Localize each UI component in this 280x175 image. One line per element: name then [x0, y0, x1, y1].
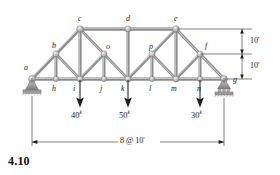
dimension-label-lower: 10': [250, 62, 259, 70]
joint-label-b: b: [52, 42, 56, 50]
figure-container: a b c d e f g h i j k l m n o p 40k 50k …: [0, 0, 280, 175]
load-arrow-50k: [125, 80, 131, 106]
load-unit-30: k: [200, 109, 202, 115]
joint-label-a: a: [24, 64, 28, 72]
load-value-30: 30: [191, 110, 200, 120]
load-unit-40: k: [80, 109, 82, 115]
dimension-label-span: 8 @ 10': [120, 137, 145, 145]
joint-p: [149, 51, 155, 57]
load-arrows: [77, 80, 203, 106]
joint-label-l: l: [149, 85, 151, 93]
joint-label-o: o: [106, 43, 110, 51]
joint-label-k: k: [121, 85, 125, 93]
joint-l: [149, 76, 154, 81]
joint-o: [101, 51, 107, 57]
load-label-40k: 40k: [71, 110, 82, 119]
joint-h: [53, 76, 58, 81]
load-value-40: 40: [71, 110, 80, 120]
joint-label-i: i: [73, 85, 75, 93]
joint-label-h: h: [52, 85, 56, 93]
joint-j: [101, 76, 106, 81]
load-arrow-40k: [77, 80, 83, 106]
truss-diagram: [0, 0, 280, 175]
vertical-members: [55, 29, 200, 79]
joint-label-d: d: [126, 15, 130, 23]
load-label-50k: 50k: [119, 110, 130, 119]
joint-d: [125, 26, 131, 32]
joint-label-f: f: [205, 42, 207, 50]
joint-label-g: g: [233, 76, 237, 84]
joint-label-c: c: [78, 15, 82, 23]
joint-label-n: n: [197, 85, 201, 93]
load-unit-50: k: [128, 109, 130, 115]
joint-label-p: p: [149, 43, 153, 51]
load-value-50: 50: [119, 110, 128, 120]
joint-label-e: e: [174, 15, 178, 23]
joint-label-m: m: [171, 85, 177, 93]
joint-b: [53, 51, 59, 57]
joint-m: [173, 76, 179, 82]
dimension-label-upper: 10': [250, 37, 259, 45]
truss-members: [31, 28, 224, 79]
load-label-30k: 30k: [191, 110, 202, 119]
figure-number: 4.10: [8, 154, 30, 169]
joint-label-j: j: [100, 85, 102, 93]
joint-c: [77, 26, 84, 33]
vertical-dimensions: [177, 29, 252, 79]
